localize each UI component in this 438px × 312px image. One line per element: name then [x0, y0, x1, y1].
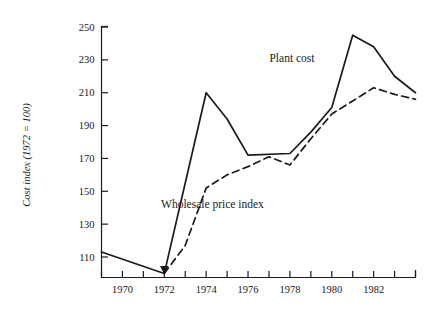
- chart-axes: [101, 26, 416, 278]
- chart-figure: 110130150170190210230250 197019721974197…: [0, 0, 438, 312]
- x-axis-tick-label: 1980: [321, 284, 342, 295]
- y-axis-title: Cost index (1972 = 100): [21, 103, 33, 207]
- series-line-wholesale-price-index: [164, 88, 415, 274]
- y-axis-tick-label: 190: [79, 120, 95, 131]
- x-axis-tick-label: 1982: [363, 284, 384, 295]
- y-axis-tick-label: 170: [79, 153, 95, 164]
- y-axis-tick-label: 150: [79, 186, 95, 197]
- x-axis-tick-label: 1972: [154, 284, 175, 295]
- x-axis-tick-label: 1978: [279, 284, 300, 295]
- chart-series-layer: [102, 35, 416, 273]
- line-chart: 110130150170190210230250 197019721974197…: [0, 0, 438, 312]
- y-axis-tick-labels: 110130150170190210230250: [79, 22, 95, 263]
- series-annotation-plant-cost: Plant cost: [269, 52, 315, 64]
- x-axis-tick-label: 1970: [112, 284, 133, 295]
- y-axis-tick-label: 230: [79, 54, 95, 65]
- y-axis-tick-label: 250: [79, 22, 95, 33]
- y-axis-tick-label: 210: [79, 87, 95, 98]
- y-axis-tick-label: 130: [79, 219, 95, 230]
- series-line-plant-cost: [102, 35, 416, 273]
- y-axis-tick-label: 110: [79, 252, 94, 263]
- y-axis-ticks: [102, 27, 109, 257]
- x-axis-tick-label: 1974: [196, 284, 218, 295]
- x-axis-tick-labels: 1970197219741976197819801982: [112, 284, 384, 295]
- x-axis-tick-label: 1976: [238, 284, 259, 295]
- x-axis-ticks: [102, 271, 416, 278]
- series-annotation-wholesale-price-index: Wholesale price index: [161, 198, 264, 211]
